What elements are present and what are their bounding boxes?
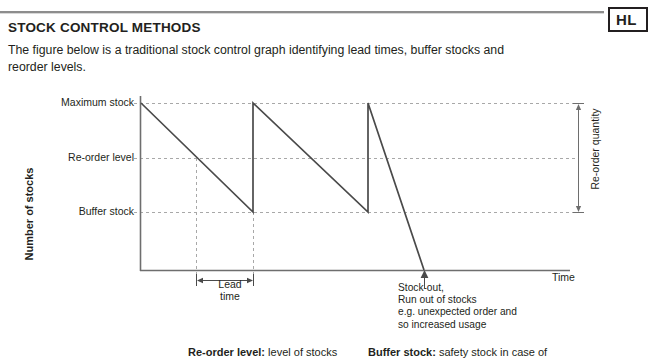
y-axis-label: Number of stocks — [23, 159, 35, 269]
reorder-qty-arrow-top — [576, 104, 581, 110]
lead-time-label: Lead time — [209, 278, 251, 302]
note-reorder-level-term: Re-order level: — [188, 346, 265, 358]
tick-label-reorder-level: Re-order level — [42, 151, 134, 163]
note-buffer-stock-term: Buffer stock: — [368, 346, 436, 358]
top-rule-shadow — [0, 13, 604, 14]
note-buffer-stock-text: safety stock in case of — [436, 346, 547, 358]
lead-time-arrow-left — [197, 278, 203, 283]
reorder-qty-arrow-bottom — [576, 206, 581, 212]
note-reorder-level-text: level of stocks — [265, 346, 337, 358]
note-reorder-level: Re-order level: level of stocks — [188, 345, 337, 359]
page-title: STOCK CONTROL METHODS — [8, 20, 201, 35]
stock-level-line — [141, 103, 424, 270]
stock-out-label: Stock-out, Run out of stocks e.g. unexpe… — [398, 282, 517, 331]
hl-badge: HL — [608, 7, 648, 32]
tick-label-maximum-stock: Maximum stock — [52, 96, 134, 108]
note-buffer-stock: Buffer stock: safety stock in case of — [368, 345, 547, 359]
intro-paragraph: The figure below is a traditional stock … — [8, 42, 508, 76]
tick-label-buffer-stock: Buffer stock — [52, 205, 134, 217]
x-axis-label: Time — [552, 271, 575, 283]
stock-control-chart: Number of stocks Maximum stock Re-order … — [0, 88, 636, 303]
chart-svg — [0, 88, 636, 303]
reorder-quantity-label: Re-order quantity — [589, 94, 601, 204]
